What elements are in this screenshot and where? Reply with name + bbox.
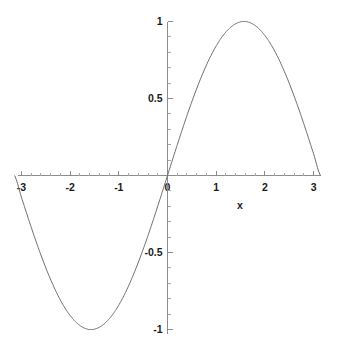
- y-axis-tick-label: -0.5: [144, 246, 162, 258]
- x-axis-group: -3-2-10123: [17, 171, 321, 193]
- x-axis-tick-label: 2: [262, 181, 268, 193]
- x-axis-tick-label: 3: [311, 181, 317, 193]
- y-axis-tick-label: -1: [153, 323, 162, 335]
- y-axis-tick-label: 0.5: [148, 92, 163, 104]
- y-axis-tick-label: 1: [157, 15, 163, 27]
- sine-plot-figure: -3-2-10123 -1-0.50.51 x: [0, 0, 337, 351]
- plot-canvas: -3-2-10123 -1-0.50.51 x: [0, 0, 337, 351]
- x-axis-tick-label: 1: [213, 181, 219, 193]
- x-axis-label: x: [237, 199, 243, 211]
- x-axis-tick-label: -1: [114, 181, 123, 193]
- x-axis-tick-labels: -3-2-10123: [17, 181, 317, 193]
- x-axis-tick-label: -2: [65, 181, 74, 193]
